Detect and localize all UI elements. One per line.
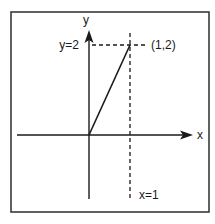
point-label: (1,2): [151, 38, 176, 52]
y-axis-label: y: [83, 13, 89, 27]
segment-origin-to-point: [89, 45, 130, 135]
x-axis-label: x: [197, 128, 203, 142]
plot-canvas: y x y=2 (1,2) x=1: [0, 0, 215, 224]
y-axis: [85, 30, 94, 199]
x-axis: [17, 131, 193, 140]
diagram-frame: [11, 12, 209, 212]
horizontal-guide-label: y=2: [59, 38, 79, 52]
vertical-guide-label: x=1: [139, 188, 159, 202]
